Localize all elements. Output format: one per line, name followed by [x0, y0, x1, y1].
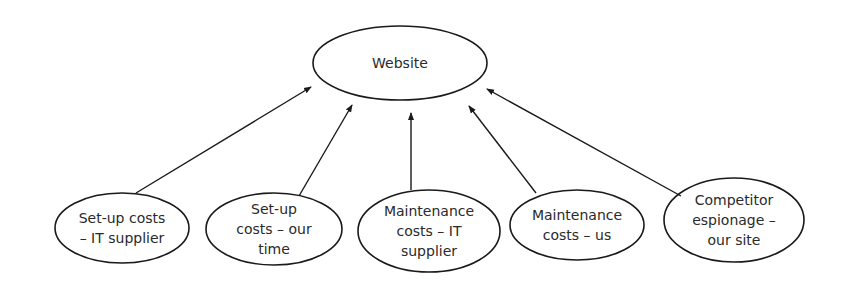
node-label-line: Maintenance	[384, 201, 474, 221]
node-label-line: costs – IT	[384, 221, 474, 241]
website-label: Website	[366, 53, 434, 73]
arrow-setup-time-to-website	[299, 105, 352, 196]
arrow-competitor-to-website	[487, 89, 681, 196]
arrow-setup-it-to-website	[136, 87, 311, 193]
setup-costs-it-supplier-node: Set-up costs – IT supplier	[55, 193, 189, 263]
competitor-espionage-node: Competitor espionage – our site	[664, 178, 804, 262]
node-label-line: Set-up	[236, 199, 311, 219]
node-label-line: espionage –	[692, 210, 776, 230]
arrow-maint-us-to-website	[469, 106, 536, 193]
maintenance-costs-it-supplier-node: Maintenance costs – IT supplier	[358, 190, 500, 272]
website-node: Website	[313, 26, 487, 100]
node-label-line: costs – our	[236, 219, 311, 239]
node-label-line: – IT supplier	[79, 228, 166, 248]
node-label-line: Maintenance	[532, 205, 622, 225]
node-label-line: time	[236, 239, 311, 259]
node-label-line: Competitor	[692, 190, 776, 210]
node-label-line: our site	[692, 230, 776, 250]
node-label-line: Set-up costs	[79, 208, 166, 228]
node-label-line: supplier	[384, 241, 474, 261]
node-label-line: costs – us	[532, 225, 622, 245]
setup-costs-our-time-node: Set-up costs – our time	[206, 193, 342, 265]
maintenance-costs-us-node: Maintenance costs – us	[510, 190, 644, 260]
